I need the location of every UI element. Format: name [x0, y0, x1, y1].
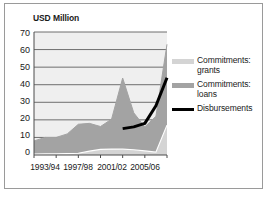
- legend-swatch-grants: [172, 59, 194, 64]
- chart-legend: Commitments: grants Commitments: loans D…: [172, 55, 264, 117]
- legend-item-commitments-loans: Commitments: loans: [172, 79, 264, 99]
- x-axis-tick-2005-06: 2005/06: [117, 162, 173, 172]
- legend-label-grants-line2: grants: [197, 65, 251, 75]
- legend-label-loans-line1: Commitments:: [197, 79, 251, 89]
- legend-swatch-disbursements: [172, 108, 194, 111]
- legend-label-grants: Commitments: grants: [197, 55, 251, 75]
- chart-figure: USD Million 70 60 50 40 30 20 10 0 1993/…: [0, 0, 270, 197]
- legend-label-disbursements-line1: Disbursements: [197, 103, 252, 113]
- legend-label-disbursements: Disbursements: [197, 103, 252, 113]
- legend-label-loans-line2: loans: [197, 89, 251, 99]
- legend-item-commitments-grants: Commitments: grants: [172, 55, 264, 75]
- legend-swatch-loans: [172, 83, 194, 88]
- legend-item-disbursements: Disbursements: [172, 103, 264, 113]
- legend-label-loans: Commitments: loans: [197, 79, 251, 99]
- legend-label-grants-line1: Commitments:: [197, 55, 251, 65]
